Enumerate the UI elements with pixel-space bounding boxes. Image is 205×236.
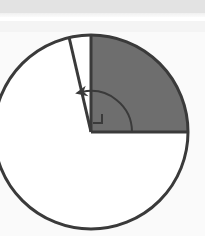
geometry-figure: Circle with shaded quarter sector and ma… (0, 0, 205, 236)
circle-diagram-svg (0, 0, 205, 236)
right-angle-square-fill (95, 116, 101, 122)
